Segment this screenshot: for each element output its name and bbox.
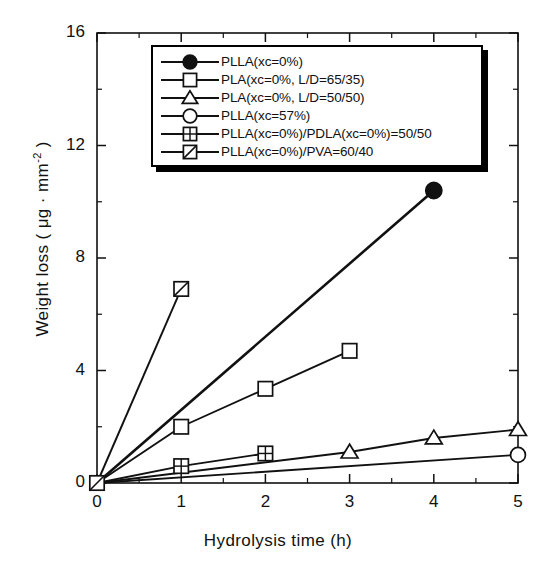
marker-crossed-square bbox=[258, 446, 272, 460]
legend-marker-open-square bbox=[159, 71, 221, 89]
open-square-marker bbox=[174, 420, 188, 434]
marker-diagonal-square bbox=[183, 145, 196, 158]
x-tick-label: 1 bbox=[161, 492, 201, 512]
legend-item[interactable]: PLLA(xc=0%) bbox=[153, 53, 481, 71]
series-line bbox=[97, 430, 518, 483]
legend-marker-filled-circle bbox=[159, 53, 221, 71]
y-axis-title-suffix: ) bbox=[33, 141, 52, 152]
x-tick-label: 3 bbox=[330, 492, 370, 512]
filled-circle-marker bbox=[183, 55, 197, 69]
marker-filled-circle bbox=[183, 55, 197, 69]
x-tick-label: 0 bbox=[77, 492, 117, 512]
x-tick-label: 5 bbox=[498, 492, 538, 512]
marker-open-square bbox=[174, 420, 188, 434]
legend-item[interactable]: PLA(xc=0%, L/D=65/35) bbox=[153, 71, 481, 89]
marker-open-square bbox=[258, 382, 272, 396]
marker-open-square bbox=[342, 344, 356, 358]
series-markers-0 bbox=[426, 182, 442, 198]
series-line bbox=[97, 351, 350, 483]
series-markers-2 bbox=[341, 422, 526, 458]
legend-item[interactable]: PLA(xc=0%, L/D=50/50) bbox=[153, 89, 481, 107]
legend-marker-crossed-square bbox=[159, 125, 221, 143]
open-square-marker bbox=[258, 382, 272, 396]
open-circle-marker bbox=[183, 109, 197, 123]
y-tick-label: 16 bbox=[45, 22, 85, 42]
marker-open-circle bbox=[183, 109, 197, 123]
legend-item[interactable]: PLLA(xc=0%)/PDLA(xc=0%)=50/50 bbox=[153, 125, 481, 143]
legend-marker-open-circle bbox=[159, 107, 221, 125]
series-line bbox=[97, 191, 434, 484]
figure-root: 0481216 012345 Weight loss ( μg · mm-2 )… bbox=[0, 0, 556, 576]
x-tick-label: 2 bbox=[245, 492, 285, 512]
y-axis-title: Weight loss ( μg · mm-2 ) bbox=[31, 109, 53, 369]
series-markers-1 bbox=[174, 344, 357, 434]
legend-marker-open-triangle bbox=[159, 89, 221, 107]
series-2 bbox=[97, 430, 518, 483]
legend-label: PLLA(xc=0%) bbox=[221, 53, 303, 71]
open-square-marker bbox=[342, 344, 356, 358]
marker-crossed-square bbox=[183, 127, 196, 140]
marker-open-square bbox=[183, 73, 196, 86]
legend-marker-diagonal-square bbox=[159, 143, 221, 161]
legend-label: PLLA(xc=57%) bbox=[221, 107, 310, 125]
legend: PLLA(xc=0%)PLA(xc=0%, L/D=65/35)PLA(xc=0… bbox=[151, 45, 483, 167]
y-tick-label: 0 bbox=[45, 472, 85, 492]
legend-label: PLA(xc=0%, L/D=65/35) bbox=[221, 71, 364, 89]
marker-crossed-square bbox=[174, 459, 188, 473]
series-markers-3 bbox=[511, 447, 526, 462]
legend-label: PLA(xc=0%, L/D=50/50) bbox=[221, 89, 364, 107]
marker-filled-circle bbox=[426, 182, 442, 198]
series-1 bbox=[97, 351, 350, 483]
marker-open-triangle bbox=[510, 422, 527, 436]
marker-diagonal-square bbox=[174, 282, 188, 296]
legend-item[interactable]: PLLA(xc=0%)/PVA=60/40 bbox=[153, 143, 481, 161]
y-axis-title-exponent: -2 bbox=[31, 152, 43, 163]
x-axis-title: Hydrolysis time (h) bbox=[0, 531, 556, 551]
filled-circle-marker bbox=[426, 182, 442, 198]
legend-label: PLLA(xc=0%)/PVA=60/40 bbox=[221, 143, 373, 161]
marker-diagonal-square bbox=[90, 476, 104, 490]
legend-label: PLLA(xc=0%)/PDLA(xc=0%)=50/50 bbox=[221, 125, 432, 143]
series-layer bbox=[90, 182, 527, 490]
open-square-marker bbox=[183, 73, 196, 86]
open-triangle-marker bbox=[510, 422, 527, 436]
open-circle-marker bbox=[511, 447, 526, 462]
x-tick-label: 4 bbox=[414, 492, 454, 512]
y-axis-title-prefix: Weight loss ( μg · mm bbox=[33, 163, 52, 337]
marker-open-circle bbox=[511, 447, 526, 462]
series-0 bbox=[97, 191, 434, 484]
legend-item[interactable]: PLLA(xc=57%) bbox=[153, 107, 481, 125]
